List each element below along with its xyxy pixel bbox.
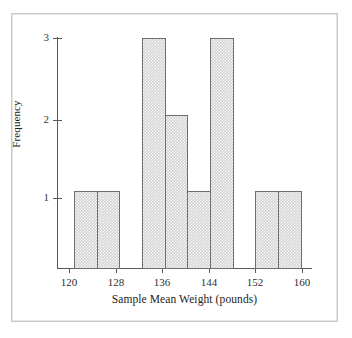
histogram-bar-152-156 bbox=[255, 191, 279, 269]
y-tick-mark-3 bbox=[53, 38, 62, 39]
y-axis-line bbox=[57, 37, 58, 269]
x-tick-label-160: 160 bbox=[285, 276, 319, 288]
histogram-bar-136-140 bbox=[165, 115, 188, 269]
y-tick-mark-1 bbox=[53, 198, 62, 199]
y-tick-mark-2 bbox=[53, 120, 62, 121]
plot-area: 1 2 3 120 128 136 144 152 160 Sample Mea… bbox=[0, 0, 352, 338]
x-tick-label-120: 120 bbox=[52, 276, 86, 288]
histogram-bar-156-160 bbox=[278, 191, 302, 269]
x-tick-label-128: 128 bbox=[99, 276, 133, 288]
histogram-bar-124-128 bbox=[97, 191, 120, 269]
y-tick-label-2: 2 bbox=[33, 114, 49, 125]
x-tick-label-152: 152 bbox=[238, 276, 272, 288]
y-tick-label-1: 1 bbox=[33, 192, 49, 203]
x-tick-label-144: 144 bbox=[192, 276, 226, 288]
x-tick-mark-160 bbox=[302, 268, 303, 273]
histogram-figure: 1 2 3 120 128 136 144 152 160 Sample Mea… bbox=[0, 0, 352, 338]
x-tick-mark-120 bbox=[69, 268, 70, 273]
x-axis-title: Sample Mean Weight (pounds) bbox=[57, 293, 312, 306]
histogram-bar-144-148 bbox=[210, 38, 234, 269]
histogram-bar-140-144 bbox=[187, 191, 211, 269]
y-tick-label-3: 3 bbox=[33, 32, 49, 43]
histogram-bar-132-136 bbox=[142, 38, 166, 269]
histogram-bar-120-124 bbox=[74, 191, 98, 269]
y-axis-title: Frequency bbox=[10, 79, 22, 169]
x-tick-label-136: 136 bbox=[145, 276, 179, 288]
